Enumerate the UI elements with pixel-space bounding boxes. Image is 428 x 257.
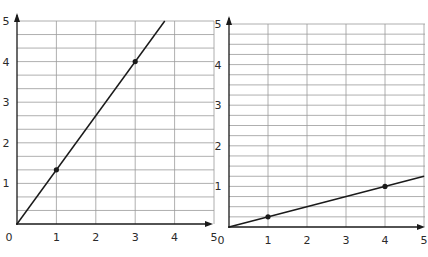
x-tick-label: 1	[265, 234, 272, 247]
x-tick-label: 1	[53, 231, 60, 244]
data-point	[133, 59, 138, 64]
y-tick-label: 4	[215, 59, 222, 72]
data-point	[54, 167, 59, 172]
y-tick-label: 3	[3, 96, 10, 109]
x-tick-label: 2	[304, 234, 311, 247]
left-chart: 12345012345	[3, 13, 218, 244]
x-axis-arrow-icon	[205, 221, 213, 227]
y-tick-label: 2	[215, 140, 222, 153]
right-chart: 12345012345	[215, 16, 428, 247]
x-tick-label: 4	[382, 234, 389, 247]
y-axis-arrow-icon	[226, 16, 232, 25]
y-axis-arrow-icon	[14, 13, 20, 22]
y-tick-label: 1	[215, 180, 222, 193]
x-tick-label: 5	[211, 231, 218, 244]
series-line	[17, 21, 165, 224]
y-tick-label: 3	[215, 99, 222, 112]
y-tick-label: 5	[215, 18, 222, 31]
x-tick-label: 5	[421, 234, 428, 247]
origin-label: 0	[6, 231, 13, 244]
x-tick-label: 4	[171, 231, 178, 244]
y-tick-label: 1	[3, 177, 10, 190]
data-point	[382, 184, 387, 189]
y-tick-label: 4	[3, 56, 10, 69]
x-tick-label: 3	[132, 231, 139, 244]
y-tick-label: 2	[3, 137, 10, 150]
x-tick-label: 3	[343, 234, 350, 247]
charts-canvas: 12345012345 12345012345	[0, 0, 428, 257]
y-tick-label: 5	[3, 15, 10, 28]
data-point	[265, 214, 270, 219]
origin-label: 0	[218, 234, 225, 247]
x-tick-label: 2	[92, 231, 99, 244]
series-line	[229, 176, 424, 227]
